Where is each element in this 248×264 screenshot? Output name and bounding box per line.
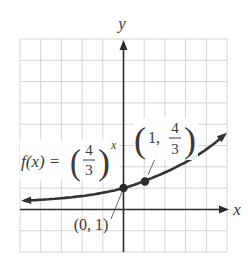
paren-close: ) — [98, 142, 110, 182]
graph: x y (0, 1) f(x) = ( 4 3 ) x ( 1, 4 3 ) — [0, 0, 248, 264]
leader-line-0-1 — [111, 192, 122, 219]
paren-open: ( — [70, 141, 81, 182]
base-denominator: 3 — [85, 162, 93, 178]
label-numerator: 4 — [171, 120, 179, 136]
function-label: f(x) = ( 4 3 ) x — [20, 138, 120, 182]
label-x: 1, — [148, 129, 160, 146]
x-axis-label: x — [232, 200, 241, 219]
y-axis-label: y — [116, 14, 126, 33]
label-denominator: 3 — [171, 141, 179, 157]
y-axis-arrow-icon — [120, 40, 128, 50]
exponent: x — [110, 138, 117, 152]
function-label-prefix: f(x) = — [21, 152, 60, 171]
point-0-1 — [119, 184, 127, 192]
label-paren-close: ) — [184, 120, 196, 160]
label-paren-open: ( — [134, 120, 146, 160]
point-label-1-4-3: ( 1, 4 3 ) — [134, 118, 198, 160]
point-label-0-1: (0, 1) — [74, 216, 109, 234]
point-1-4-3 — [141, 177, 149, 185]
curve-left-arrow-icon — [21, 196, 31, 204]
base-numerator: 4 — [85, 142, 93, 158]
